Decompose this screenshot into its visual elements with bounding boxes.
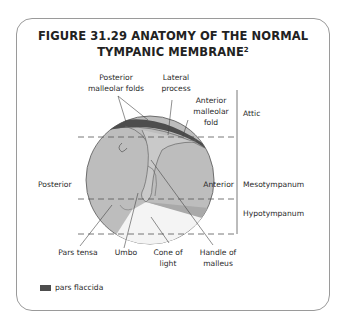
label-posterior-malleolar-folds-1: Posterior xyxy=(99,73,133,82)
region-label-mesotympanum: Mesotympanum xyxy=(243,180,304,189)
pars-flaccida-swatch xyxy=(40,285,51,291)
label-cone-of-light-2: light xyxy=(160,259,177,268)
label-lateral-process-1: Lateral xyxy=(163,73,189,82)
region-label-attic: Attic xyxy=(243,109,260,118)
region-label-hypotympanum: Hypotympanum xyxy=(243,209,304,218)
legend: pars flaccida xyxy=(40,283,103,292)
legend-label-pars-flaccida: pars flaccida xyxy=(55,283,103,292)
label-umbo: Umbo xyxy=(115,248,138,257)
label-handle-of-malleus-1: Handle of xyxy=(200,248,237,257)
label-anterior-malleolar-fold-3: fold xyxy=(204,118,218,127)
label-pars-tensa: Pars tensa xyxy=(58,248,97,257)
leader-posterior-malleolar-folds-1 xyxy=(118,96,126,122)
label-lateral-process-2: process xyxy=(161,84,190,93)
tympanic-membrane-diagram: Posterior malleolar folds Lateral proces… xyxy=(0,0,339,329)
leader-posterior-malleolar-folds-2 xyxy=(118,96,148,120)
label-anterior-malleolar-fold-1: Anterior xyxy=(196,96,228,105)
label-cone-of-light-1: Cone of xyxy=(153,248,182,257)
label-anterior: Anterior xyxy=(203,180,235,189)
label-handle-of-malleus-2: malleus xyxy=(203,259,233,268)
label-posterior-malleolar-folds-2: malleolar folds xyxy=(88,84,144,93)
label-posterior: Posterior xyxy=(38,180,72,189)
label-anterior-malleolar-fold-2: malleolar xyxy=(193,107,229,116)
